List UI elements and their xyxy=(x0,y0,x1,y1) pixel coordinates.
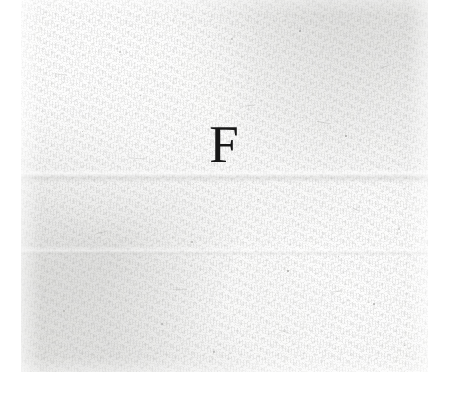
paper-grain-texture xyxy=(21,0,428,372)
paper-speck xyxy=(35,217,36,218)
ink-glyph-letter-f: F xyxy=(0,119,452,172)
scanned-paper-sheet xyxy=(21,0,428,372)
paper-speck xyxy=(231,38,233,40)
paper-speck xyxy=(63,310,65,312)
paper-edge-vignette xyxy=(21,0,428,372)
paper-crease-band-secondary xyxy=(21,246,428,256)
paper-fibre-fleck xyxy=(55,73,67,76)
paper-fibre-texture-primary xyxy=(21,0,428,372)
paper-speck xyxy=(287,270,289,272)
scan-canvas: F xyxy=(0,0,452,397)
paper-fibre-fleck xyxy=(279,329,289,333)
paper-speck xyxy=(161,323,163,325)
paper-speck xyxy=(373,303,375,305)
paper-fibre-fleck xyxy=(352,207,360,211)
paper-fibre-fleck xyxy=(381,64,390,68)
paper-fibre-fleck xyxy=(173,289,187,291)
paper-speck xyxy=(299,30,301,32)
paper-speck xyxy=(258,199,259,200)
paper-fibre-fleck xyxy=(246,105,255,107)
paper-speck xyxy=(404,345,405,346)
paper-fibre-texture-secondary xyxy=(21,0,428,372)
paper-speck xyxy=(191,241,193,243)
paper-speck xyxy=(338,256,339,257)
paper-fibre-fleck xyxy=(96,231,107,235)
paper-speck xyxy=(398,228,400,230)
paper-fibre-fleck xyxy=(330,290,341,293)
paper-blotch-texture xyxy=(21,0,428,372)
paper-speck xyxy=(213,351,215,353)
paper-speck xyxy=(97,185,98,186)
paper-speck xyxy=(140,95,141,96)
paper-speck xyxy=(119,51,121,53)
